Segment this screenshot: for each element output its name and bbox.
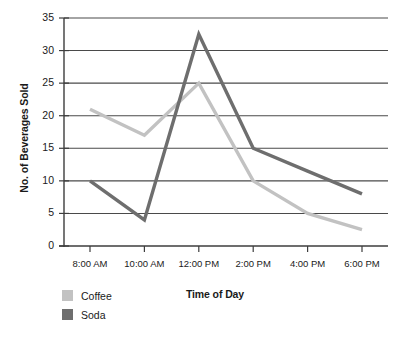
legend-label: Soda <box>81 309 106 321</box>
x-tick-label: 10:00 AM <box>115 258 173 269</box>
x-tick-label: 6:00 PM <box>333 258 391 269</box>
plot-area <box>0 0 404 338</box>
x-tick-marks <box>90 246 362 252</box>
y-tick-label: 25 <box>28 77 54 88</box>
data-series-lines <box>90 34 362 229</box>
legend-swatch-icon <box>62 290 73 301</box>
x-tick-label: 12:00 PM <box>170 258 228 269</box>
legend-swatch-icon <box>62 309 73 320</box>
y-tick-label: 35 <box>28 12 54 23</box>
y-tick-label: 10 <box>28 175 54 186</box>
y-tick-label: 20 <box>28 110 54 121</box>
series-line-coffee <box>90 83 362 230</box>
y-tick-label: 15 <box>28 142 54 153</box>
x-tick-label: 4:00 PM <box>279 258 337 269</box>
y-tick-label: 0 <box>28 240 54 251</box>
legend-item-soda[interactable]: Soda <box>62 305 112 324</box>
x-tick-label: 8:00 AM <box>61 258 119 269</box>
x-tick-label: 2:00 PM <box>224 258 282 269</box>
y-tick-label: 5 <box>28 207 54 218</box>
legend-item-coffee[interactable]: Coffee <box>62 286 112 305</box>
y-tick-label: 30 <box>28 45 54 56</box>
beverage-sales-line-chart: No. of Beverages Sold Time of Day 353025… <box>0 0 404 338</box>
chart-legend: CoffeeSoda <box>62 286 112 324</box>
legend-label: Coffee <box>81 290 112 302</box>
axis-lines <box>59 18 388 247</box>
